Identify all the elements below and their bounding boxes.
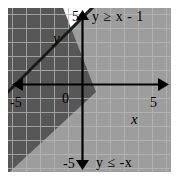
y-axis-tick-label-5: 5 bbox=[72, 10, 79, 24]
y-axis-tick-label-neg5: -5 bbox=[63, 157, 75, 171]
inequality-label-bottom: y ≤ -x bbox=[96, 156, 132, 170]
y-axis-name-label: y bbox=[53, 31, 60, 46]
origin-label: 0 bbox=[62, 92, 69, 106]
x-axis-tick-label-5: 5 bbox=[150, 96, 157, 110]
graph-svg bbox=[8, 8, 171, 172]
coordinate-plane bbox=[8, 8, 171, 172]
graph-screenshot: 5 -5 -5 5 0 y x y ≥ x - 1 y ≤ -x bbox=[0, 0, 178, 185]
inequality-label-top: y ≥ x - 1 bbox=[92, 10, 144, 24]
x-axis-name-label: x bbox=[131, 112, 138, 127]
x-axis-tick-label-neg5: -5 bbox=[10, 96, 22, 110]
